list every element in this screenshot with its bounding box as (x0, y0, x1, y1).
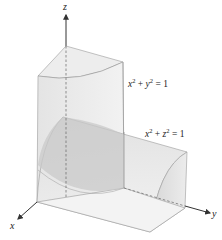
x-axis (18, 202, 37, 219)
x-axis-label: x (9, 220, 15, 231)
z-axis-label: z (62, 1, 67, 12)
y-axis-label: y (211, 208, 217, 219)
y-axis (185, 206, 210, 213)
equation-vertical-cylinder: x2 + y2 = 1 (127, 77, 168, 89)
equation-horizontal-cylinder: x2 + z2 = 1 (144, 127, 185, 139)
cylinder-intersection-diagram: z y x x2 + y2 = 1 x2 + z2 = 1 (0, 0, 222, 240)
diagram-canvas: z y x x2 + y2 = 1 x2 + z2 = 1 (0, 0, 222, 240)
